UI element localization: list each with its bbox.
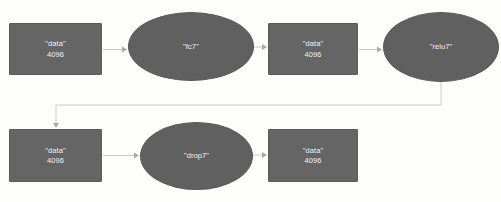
node-dimension: 4096	[47, 156, 64, 165]
node-label: "relu7"	[430, 42, 453, 51]
node-label: "data"	[45, 39, 66, 48]
node-data-4[interactable]: "data" 4096	[268, 129, 358, 182]
arrowhead-icon	[53, 123, 59, 128]
node-fc7[interactable]: "fc7"	[128, 12, 254, 81]
node-drop7[interactable]: "drop7"	[140, 122, 253, 190]
node-label: "data"	[303, 146, 324, 155]
arrowhead-icon	[262, 44, 267, 50]
node-label: "fc7"	[183, 42, 199, 51]
node-relu7[interactable]: "relu7"	[383, 12, 499, 82]
node-dimension: 4096	[47, 50, 64, 59]
edge-relu7-to-data-3	[56, 82, 441, 127]
arrowhead-icon	[122, 47, 127, 53]
node-label: "data"	[303, 39, 324, 48]
node-data-1[interactable]: "data" 4096	[9, 23, 102, 75]
node-data-3[interactable]: "data" 4096	[9, 129, 102, 182]
node-data-2[interactable]: "data" 4096	[268, 23, 358, 75]
node-dimension: 4096	[304, 50, 321, 59]
arrowhead-icon	[262, 152, 267, 158]
node-label: "data"	[45, 146, 66, 155]
node-dimension: 4096	[304, 156, 321, 165]
arrowhead-icon	[134, 153, 139, 159]
node-label: "drop7"	[184, 151, 209, 160]
arrowhead-icon	[377, 47, 382, 53]
network-graph-canvas: "data" 4096 "fc7" "data" 4096 "relu7" "d…	[0, 0, 501, 202]
